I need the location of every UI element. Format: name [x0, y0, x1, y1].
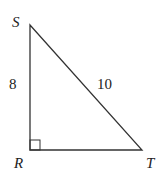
vertex-label-t: T	[146, 155, 156, 171]
vertex-label-r: R	[13, 155, 23, 171]
side-label-st: 10	[97, 76, 112, 92]
triangle-diagram: S R T 8 10	[0, 0, 162, 173]
triangle-srt	[30, 25, 142, 150]
vertex-label-s: S	[12, 14, 20, 30]
right-angle-marker	[30, 140, 40, 150]
side-label-sr: 8	[9, 76, 17, 92]
